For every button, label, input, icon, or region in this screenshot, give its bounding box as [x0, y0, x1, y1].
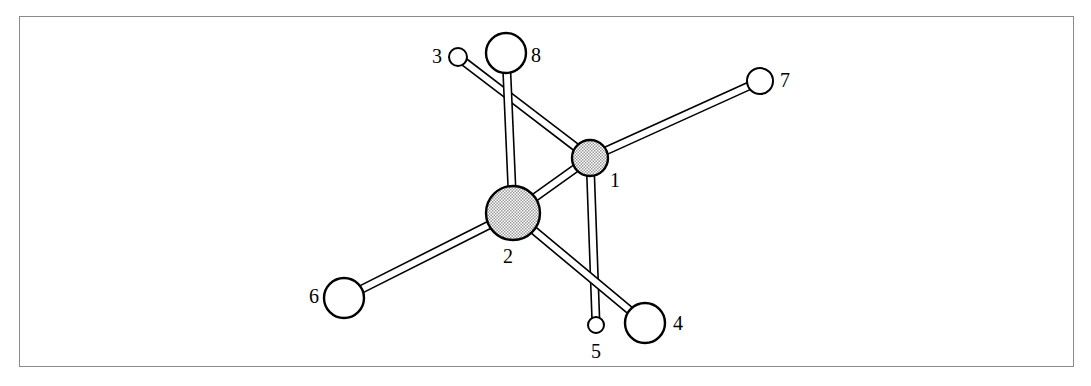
atom-label-4: 4: [673, 312, 683, 334]
bond-1-7: [599, 85, 751, 154]
atom-5: [588, 317, 604, 333]
atom-8: [486, 33, 526, 73]
label-layer: 12345678: [309, 44, 790, 362]
atom-label-5: 5: [591, 340, 601, 362]
atom-label-6: 6: [309, 285, 319, 307]
atom-6: [324, 278, 364, 318]
atom-label-1: 1: [610, 169, 620, 191]
molecule-diagram: 12345678: [0, 0, 1091, 386]
atom-2: [486, 186, 540, 240]
figure-root: 12345678: [0, 0, 1091, 386]
atom-7: [747, 68, 773, 94]
atom-label-7: 7: [780, 69, 790, 91]
bond-2-4: [524, 223, 633, 314]
bond-1-3: [464, 61, 583, 152]
atom-label-2: 2: [503, 245, 513, 267]
atom-1: [572, 140, 608, 176]
atom-label-8: 8: [531, 44, 541, 66]
atom-3: [449, 48, 467, 66]
bond-layer: [358, 61, 751, 318]
bond-2-6: [358, 220, 500, 291]
atom-4: [625, 303, 665, 343]
bond-1-2: [530, 164, 582, 201]
atom-label-3: 3: [432, 45, 442, 67]
